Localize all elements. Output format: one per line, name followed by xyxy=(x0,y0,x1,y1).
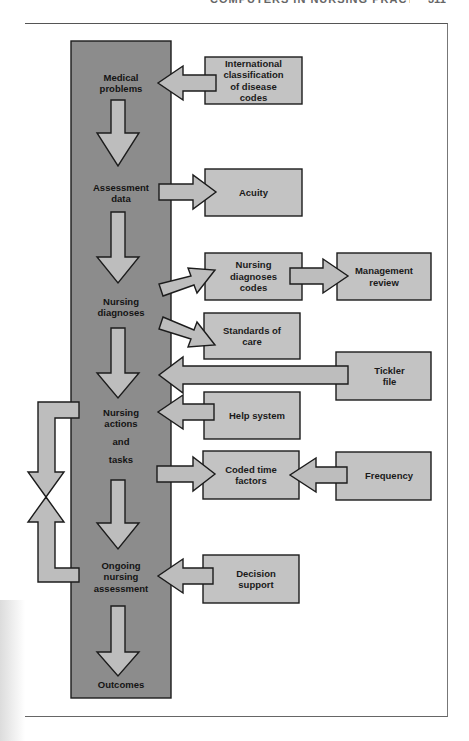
stage-nursing-diagnoses: Nursing diagnoses xyxy=(71,294,171,320)
stage-and: and xyxy=(71,435,171,449)
stage-tasks: tasks xyxy=(71,453,171,467)
label-help-system: Help system xyxy=(214,392,300,439)
label-icd: International classification of disease … xyxy=(205,57,302,104)
stage-outcomes: Outcomes xyxy=(71,678,171,692)
stage-assessment-data: Assessment data xyxy=(71,180,171,206)
label-standards-of-care: Standards of care xyxy=(204,313,300,359)
stage-nursing-actions: Nursing actions xyxy=(71,405,171,431)
label-nursing-diagnoses-codes: Nursing diagnoses codes xyxy=(205,253,302,300)
arrow-left-long-icon xyxy=(159,357,348,393)
label-acuity: Acuity xyxy=(205,169,302,216)
stage-medical-problems: Medical problems xyxy=(71,70,171,96)
label-frequency: Frequency xyxy=(347,452,431,500)
label-coded-time-factors: Coded time factors xyxy=(203,451,299,499)
label-management-review: Management review xyxy=(337,253,431,300)
label-tickler-file: Tickler file xyxy=(348,352,431,400)
stage-ongoing-assessment: Ongoing nursing assessment xyxy=(71,558,171,596)
label-decision-support: Decision support xyxy=(213,555,299,603)
